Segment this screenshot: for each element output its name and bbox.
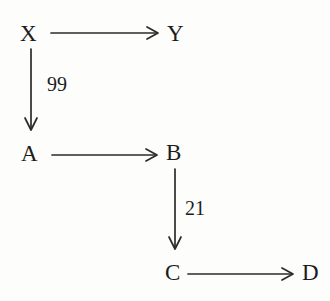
edge-x-to-a [25, 49, 37, 130]
node-label-a: A [21, 142, 38, 165]
diagram-canvas: X Y A B C D 99 21 [0, 0, 330, 301]
edge-a-to-b [52, 149, 157, 161]
edge-b-to-c [169, 169, 181, 249]
node-label-d: D [302, 261, 319, 284]
node-label-x: X [20, 22, 37, 45]
graph-edges-layer [0, 0, 330, 301]
node-label-y: Y [167, 22, 184, 45]
edge-x-to-y [51, 27, 158, 39]
node-label-b: B [166, 141, 181, 164]
edge-weight-x-to-a: 99 [47, 74, 67, 94]
edge-weight-b-to-c: 21 [185, 198, 205, 218]
node-label-c: C [165, 261, 180, 284]
edge-c-to-d [188, 268, 293, 280]
